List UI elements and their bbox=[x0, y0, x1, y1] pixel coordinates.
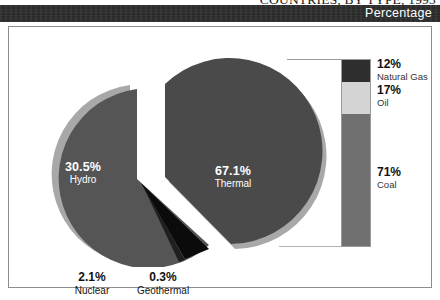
bar-segment-oil bbox=[342, 82, 370, 114]
pie-label-geothermal-name: Geothermal bbox=[117, 285, 209, 297]
header-band: Percentage bbox=[0, 5, 440, 22]
chart-frame: 30.5% Hydro 67.1% Thermal 2.1% Nuclear 0… bbox=[8, 26, 432, 288]
pie-label-thermal-name: Thermal bbox=[187, 179, 279, 190]
pie-label-geothermal-pct: 0.3% bbox=[117, 271, 209, 285]
pie-chart-svg bbox=[9, 27, 349, 267]
header-label: Percentage bbox=[365, 5, 432, 22]
bar-label-oil-pct: 17% bbox=[377, 83, 401, 97]
bar-label-natural-gas-pct: 12% bbox=[377, 57, 428, 71]
pie-label-hydro-pct: 30.5% bbox=[37, 161, 129, 175]
bar-label-coal-pct: 71% bbox=[377, 165, 401, 179]
leader-line-bottom bbox=[279, 246, 341, 247]
bar-label-natural-gas: 12% Natural Gas bbox=[377, 57, 428, 83]
pie-label-hydro: 30.5% Hydro bbox=[37, 161, 129, 185]
leader-line-top bbox=[287, 59, 341, 60]
pie-label-thermal: 67.1% Thermal bbox=[187, 165, 279, 189]
bar-label-natural-gas-name: Natural Gas bbox=[377, 71, 428, 82]
bar-label-coal: 71% Coal bbox=[377, 165, 401, 191]
pie-label-hydro-name: Hydro bbox=[37, 175, 129, 186]
thermal-breakdown-bar bbox=[341, 59, 371, 247]
pie-label-thermal-pct: 67.1% bbox=[187, 165, 279, 179]
pie-chart: 30.5% Hydro 67.1% Thermal bbox=[9, 27, 349, 267]
bar-label-oil-name: Oil bbox=[377, 97, 401, 108]
bar-label-oil: 17% Oil bbox=[377, 83, 401, 109]
bar-label-coal-name: Coal bbox=[377, 179, 401, 190]
bar-segment-natural-gas bbox=[342, 60, 370, 82]
pie-label-geothermal: 0.3% Geothermal bbox=[117, 271, 209, 296]
bar-segment-coal bbox=[342, 114, 370, 246]
